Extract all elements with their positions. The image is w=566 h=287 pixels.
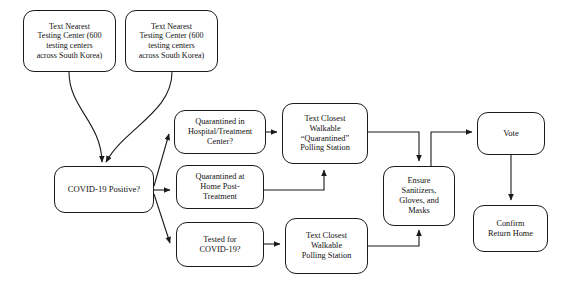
node-label: Tested for COVID-19? (195, 235, 244, 255)
edge-covid-to-hospital (154, 134, 169, 186)
node-testing-center-right[interactable]: Text Nearest Testing Center (600 testing… (125, 10, 218, 72)
edge-covid-to-tested (154, 194, 170, 243)
node-label: Text Nearest Testing Center (600 testing… (135, 22, 209, 60)
node-label: Confirm Return Home (484, 219, 537, 239)
edge-quarantined-polling-to-ensure (368, 132, 419, 161)
edge-polling-to-ensure (368, 230, 419, 246)
node-confirm-return-home[interactable]: Confirm Return Home (473, 205, 548, 252)
node-vote[interactable]: Vote (477, 112, 545, 155)
edge-home-to-quarantined-polling (264, 170, 324, 190)
edge-testing-right-to-covid (106, 72, 172, 162)
node-label: Quarantined in Hospital/Treatment Center… (184, 117, 256, 146)
node-label: Ensure Sanitizers, Gloves, and Masks (395, 176, 443, 215)
edge-testing-left-to-covid (69, 72, 102, 162)
node-label: Vote (499, 128, 523, 138)
node-label: Text Closest Walkable “Quarantined” Poll… (296, 114, 354, 153)
node-ensure-ppe[interactable]: Ensure Sanitizers, Gloves, and Masks (383, 166, 455, 226)
node-quarantined-hospital[interactable]: Quarantined in Hospital/Treatment Center… (174, 110, 266, 154)
node-quarantined-home[interactable]: Quarantined at Home Post- Treatment (176, 165, 264, 209)
node-label: Quarantined at Home Post- Treatment (191, 172, 248, 201)
node-label: Text Nearest Testing Center (600 testing… (33, 22, 107, 60)
node-label: Text Closest Walkable Polling Station (298, 231, 356, 260)
node-testing-center-left[interactable]: Text Nearest Testing Center (600 testing… (23, 10, 116, 72)
node-label: COVID-19 Positive? (64, 184, 144, 194)
node-polling-station[interactable]: Text Closest Walkable Polling Station (285, 218, 368, 274)
node-covid-positive[interactable]: COVID-19 Positive? (54, 166, 154, 213)
node-quarantined-polling-station[interactable]: Text Closest Walkable “Quarantined” Poll… (282, 103, 368, 164)
edge-ensure-to-vote (431, 132, 472, 166)
node-tested-for-covid[interactable]: Tested for COVID-19? (176, 222, 264, 267)
flowchart-canvas: Text Nearest Testing Center (600 testing… (0, 0, 566, 287)
